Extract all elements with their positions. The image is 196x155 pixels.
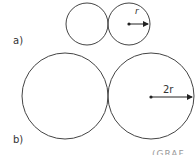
- circles-diagram: [0, 0, 196, 155]
- part-a-label: a): [13, 35, 23, 46]
- radius-label-r: r: [135, 6, 139, 16]
- radius-arrow-2r: [149, 95, 192, 98]
- footer-fragment: (GRAF: [152, 149, 185, 155]
- large-circles: [22, 53, 194, 139]
- radius-label-2r: 2r: [163, 84, 173, 95]
- part-b-label: b): [13, 134, 23, 145]
- radius-arrow-r: [127, 22, 148, 25]
